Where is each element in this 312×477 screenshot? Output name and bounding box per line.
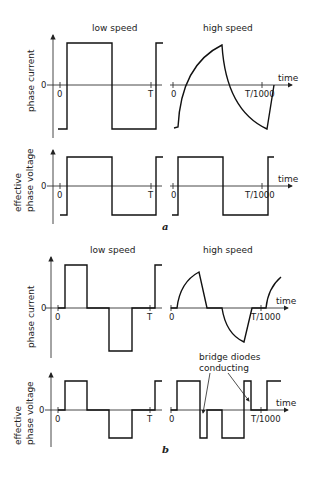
tick-label-0: 0 — [169, 312, 174, 322]
tick-label-T1000: T/1000 — [250, 414, 281, 424]
annotation-arrow-right — [228, 373, 249, 401]
waveform-voltage-high-b — [171, 381, 281, 438]
tick-label-T1000: T/1000 — [250, 312, 281, 322]
annotation-bridge-diodes: bridge diodes — [199, 352, 261, 362]
tick-label-0: 0 — [55, 414, 60, 424]
ylabel-phase-voltage-b: phase voltage — [25, 381, 35, 445]
tick-label-0: 0 — [57, 89, 62, 99]
tick-label-0: 0 — [55, 312, 60, 322]
tick-label-0: 0 — [169, 414, 174, 424]
column-title-high-speed-b: high speed — [203, 245, 253, 255]
waveform-current-high-b — [171, 272, 281, 342]
zero-label-voltage-b: 0 — [39, 405, 44, 415]
tick-label-T1000: T/1000 — [244, 89, 275, 99]
zero-label-current-a: 0 — [41, 80, 46, 90]
waveform-voltage-low-b — [58, 381, 162, 438]
ylabel-effective-a: effective — [13, 172, 23, 212]
ylabel-phase-current-a: phase current — [26, 49, 36, 112]
annotation-conducting: conducting — [199, 363, 249, 373]
column-title-low-speed-b: low speed — [90, 245, 135, 255]
tick-label-0: 0 — [57, 190, 62, 200]
tick-label-T: T — [147, 190, 154, 200]
figure-label-a: a — [162, 221, 168, 232]
column-title-high-speed-a: high speed — [203, 23, 253, 33]
column-title-low-speed-a: low speed — [92, 23, 137, 33]
zero-label-voltage-a: 0 — [41, 181, 46, 191]
figure-label-b: b — [162, 444, 169, 455]
annotation-arrow-left — [203, 373, 210, 413]
tick-label-T1000: T/1000 — [244, 190, 275, 200]
x-axis-label-time: time — [278, 174, 299, 184]
ylabel-effective-b: effective — [13, 405, 23, 445]
waveform-current-high-a — [174, 45, 274, 129]
x-axis-label-time: time — [276, 296, 297, 306]
tick-label-T: T — [146, 312, 153, 322]
waveform-current-low-a — [58, 43, 163, 129]
ylabel-phase-current-b: phase current — [26, 285, 36, 348]
tick-label-0: 0 — [171, 190, 176, 200]
motor-waveform-diagram: low speed high speed phase current 0 0 T… — [0, 0, 312, 477]
tick-label-T: T — [147, 89, 154, 99]
ylabel-phase-voltage-a: phase voltage — [25, 148, 35, 212]
x-axis-label-time: time — [276, 398, 297, 408]
tick-label-0: 0 — [171, 89, 176, 99]
tick-label-T: T — [146, 414, 153, 424]
x-axis-label-time: time — [278, 73, 299, 83]
